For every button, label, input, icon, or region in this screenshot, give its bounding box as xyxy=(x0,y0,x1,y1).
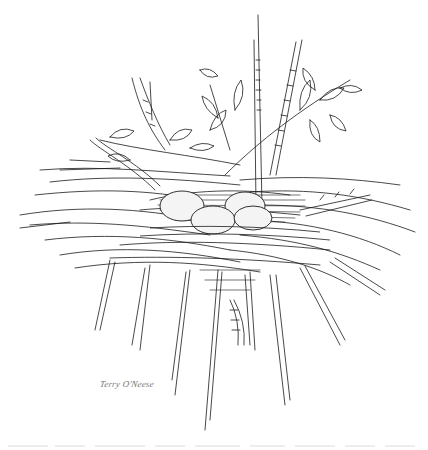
artist-signature: Terry O'Neese xyxy=(99,379,154,389)
upper-right-twig xyxy=(200,68,362,175)
central-branch xyxy=(254,15,302,205)
upper-left-twig xyxy=(100,78,240,165)
egg-3 xyxy=(191,206,235,234)
hanging-twigs xyxy=(95,258,385,430)
caption-illegible xyxy=(0,442,428,450)
nest-illustration xyxy=(0,0,428,450)
